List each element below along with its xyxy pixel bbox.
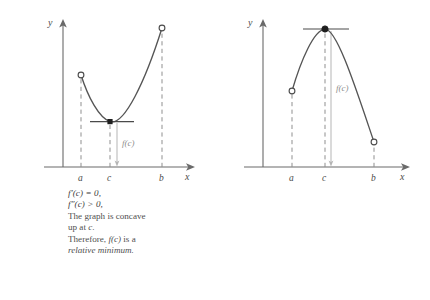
y-axis [59,19,67,167]
figure-page: y x f(c) [0,0,430,300]
tick-label-b: b [159,173,164,183]
caption-line-5-math: f(c) [108,234,121,244]
fc-annotation-label: f(c) [336,83,349,93]
x-axis-label: x [399,171,405,182]
tick-label-a: a [289,173,294,183]
fc-measure-line [329,31,334,167]
tick-label-c: c [107,173,112,183]
point-open-a [78,72,84,78]
tick-label-b: b [371,173,376,183]
caption-concave-up: f′(c) = 0, f″(c) > 0, The graph is conca… [68,188,218,256]
caption-line-3: The graph is concave [68,211,218,222]
graph-concave-up: y x f(c) [0,0,215,185]
y-axis-label: y [247,17,253,28]
panel-concave-down: y x f(c) [215,0,430,300]
caption-line-5-prefix: Therefore, [68,234,108,244]
fc-annotation-label: f(c) [122,138,135,148]
point-open-a [289,88,295,94]
point-open-b [371,139,377,145]
caption-line-5-suffix: is a [121,234,136,244]
y-axis [259,19,267,167]
caption-conclusion: relative minimum. [68,245,218,256]
x-axis [244,163,410,170]
x-axis [44,163,195,170]
curve-concave-down [292,29,374,142]
point-open-b [159,25,165,31]
caption-line-4: up at c. [68,222,218,233]
y-axis-label: y [47,17,53,28]
curve-concave-up [81,28,162,122]
caption-line-4-prefix: up at [68,222,88,232]
tick-label-a: a [78,173,83,183]
caption-second-derivative: f″(c) > 0, [68,199,218,210]
x-axis-label: x [184,171,190,182]
point-min-c [107,119,112,124]
caption-line-5: Therefore, f(c) is a [68,234,218,245]
tick-label-c: c [322,173,327,183]
graph-concave-down: y x f(c) [215,0,430,185]
caption-first-derivative: f′(c) = 0, [68,188,218,199]
panel-concave-up: y x f(c) [0,0,215,300]
fc-measure-line [115,123,120,167]
point-max-c [322,26,328,32]
caption-line-4-suffix: . [92,222,94,232]
dashed-guides [292,30,374,167]
